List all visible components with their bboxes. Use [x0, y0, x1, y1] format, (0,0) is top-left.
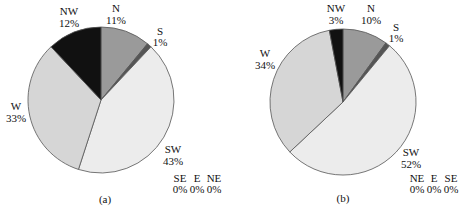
value-ne-a: 0%: [207, 183, 222, 195]
value-nw-a: 12%: [59, 17, 79, 29]
label-w-b: W: [260, 47, 271, 59]
value-e-b: 0%: [427, 183, 442, 195]
value-se-a: 0%: [173, 183, 188, 195]
value-s-b: 1%: [389, 32, 404, 44]
caption-a: (a): [99, 193, 112, 206]
value-sw-b: 52%: [401, 158, 421, 170]
label-nw-b: NW: [327, 2, 346, 14]
value-s-a: 1%: [153, 36, 168, 48]
value-e-a: 0%: [190, 183, 205, 195]
value-ne-b: 0%: [410, 183, 425, 195]
label-n-a: N: [112, 2, 120, 14]
caption-b: (b): [337, 192, 350, 205]
label-nw-a: NW: [60, 5, 79, 17]
pie-chart-b: [270, 29, 416, 175]
figure: N 11% S 1% SW 43% W 33% NW 12% SE 0% E 0…: [0, 0, 468, 210]
value-n-b: 10%: [361, 14, 381, 26]
label-sw-a: SW: [165, 143, 182, 155]
value-se-b: 0%: [444, 183, 459, 195]
label-sw-b: SW: [403, 146, 420, 158]
value-sw-a: 43%: [163, 155, 183, 167]
value-w-b: 34%: [255, 59, 275, 71]
label-w-a: W: [11, 100, 22, 112]
value-n-a: 11%: [106, 14, 126, 26]
value-w-a: 33%: [6, 112, 26, 124]
pie-chart-a: [28, 27, 174, 173]
label-n-b: N: [367, 2, 375, 14]
value-nw-b: 3%: [329, 14, 344, 26]
